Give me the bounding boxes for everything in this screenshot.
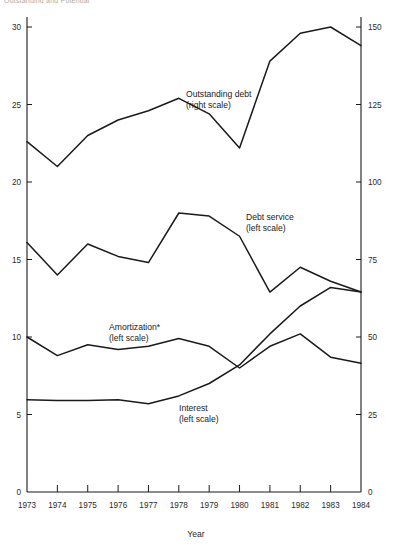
series-line [27, 213, 361, 292]
left-axis-tick-label: 15 [12, 256, 22, 265]
series-label-name: Outstanding debt [186, 89, 252, 99]
x-axis-tick-label: 1979 [200, 501, 219, 510]
left-axis-tick-label: 0 [16, 488, 21, 497]
left-axis-tick-label: 5 [16, 411, 21, 420]
chart-figure: Outstanding and Potential 051015202530 0… [0, 0, 393, 550]
right-axis-tick-label: 125 [368, 101, 382, 110]
left-axis-tick-label: 20 [12, 178, 22, 187]
line-chart-svg: 051015202530 0255075100125150 1973197419… [0, 0, 393, 550]
x-axis-tick-label: 1983 [322, 501, 341, 510]
x-axis-tick-label: 1976 [109, 501, 128, 510]
x-axis-tick-label: 1975 [79, 501, 98, 510]
right-axis-tick-label: 75 [368, 256, 378, 265]
right-axis-tick-label: 100 [368, 178, 382, 187]
right-axis: 0255075100125150 [356, 17, 382, 497]
x-axis-tick-label: 1977 [139, 501, 158, 510]
series-line [27, 334, 361, 368]
series-label-name: Debt service [246, 212, 294, 222]
series-label-scale: (left scale) [109, 333, 149, 343]
left-axis-tick-label: 30 [12, 23, 22, 32]
x-axis-tick-label: 1981 [261, 501, 280, 510]
x-axis-tick-label: 1984 [352, 501, 371, 510]
x-axis-tick-label: 1980 [230, 501, 249, 510]
series-line [27, 287, 361, 403]
x-axis-title: Year [187, 529, 205, 539]
series-label-scale: (left scale) [246, 223, 286, 233]
x-axis-tick-label: 1973 [18, 501, 37, 510]
x-axis-tick-label: 1974 [48, 501, 67, 510]
left-axis-tick-label: 25 [12, 101, 22, 110]
series-label-scale: (left scale) [179, 414, 219, 424]
right-axis-tick-label: 50 [368, 333, 378, 342]
x-axis-tick-label: 1978 [170, 501, 189, 510]
series-label-name: Interest [179, 403, 208, 413]
x-axis-tick-label: 1982 [291, 501, 310, 510]
series-label-scale: (right scale) [186, 100, 231, 110]
x-axis: 1973197419751976197719781979198019811982… [18, 485, 371, 510]
series-annotations: Outstanding debt(right scale)Debt servic… [109, 89, 294, 424]
right-axis-tick-label: 150 [368, 23, 382, 32]
left-axis: 051015202530 [12, 17, 32, 497]
series-lines [27, 27, 361, 404]
series-label-name: Amortization* [109, 322, 161, 332]
right-axis-tick-label: 0 [368, 488, 373, 497]
right-axis-tick-label: 25 [368, 411, 378, 420]
left-axis-tick-label: 10 [12, 333, 22, 342]
